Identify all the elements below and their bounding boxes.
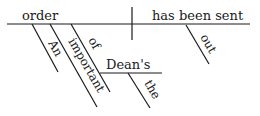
- subject-word: order: [22, 8, 59, 23]
- sentence-diagram: order has been sent An important of Dean…: [0, 0, 260, 116]
- preposition-word-of: of: [85, 35, 104, 53]
- predicate-word: has been sent: [152, 8, 244, 23]
- modifier-word-an: An: [45, 37, 66, 59]
- modifier-word-the: the: [141, 78, 163, 102]
- modifier-word-out: out: [197, 32, 219, 56]
- object-word-deans: Dean's: [106, 57, 150, 72]
